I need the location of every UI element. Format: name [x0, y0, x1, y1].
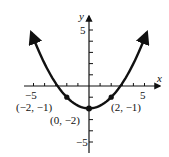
data-point	[109, 95, 114, 100]
parabola-chart: x y −5 5 5 −5 (−2, −1) (2, −1) (0, −2)	[0, 0, 169, 157]
point-label-vertex: (0, −2)	[50, 114, 80, 127]
x-axis-label: x	[156, 72, 162, 84]
y-tick-label-max: 5	[80, 24, 86, 36]
data-point	[86, 105, 92, 111]
x-tick-label-min: −5	[25, 89, 37, 101]
x-tick-label-max: 5	[140, 89, 146, 101]
point-label-right: (2, −1)	[111, 101, 141, 114]
point-label-left: (−2, −1)	[16, 101, 53, 114]
data-point	[64, 95, 69, 100]
y-axis-label: y	[78, 10, 84, 22]
y-tick-label-min: −5	[76, 136, 88, 148]
